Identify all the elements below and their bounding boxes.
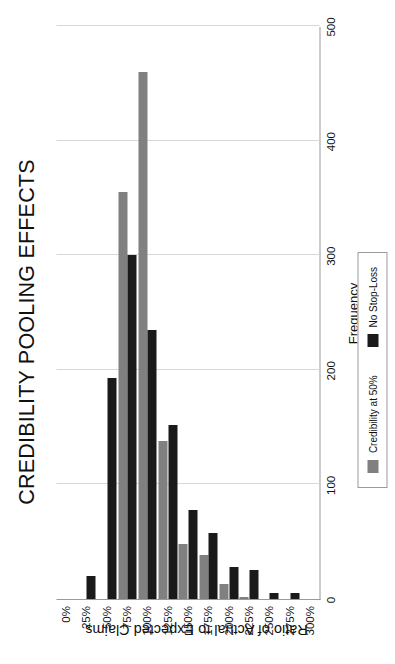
bar <box>86 576 95 599</box>
value-tick-label: 300 <box>324 247 336 266</box>
category-tick-label: 275% <box>283 606 295 664</box>
category-tick-label: 175% <box>201 606 213 664</box>
value-tick-label: 500 <box>324 17 336 36</box>
bar <box>199 555 208 599</box>
bar <box>219 584 228 599</box>
bar <box>290 593 299 599</box>
bar <box>118 192 127 599</box>
bar-group <box>218 27 238 599</box>
bar <box>249 570 258 599</box>
bar <box>107 378 116 599</box>
gray-square-icon <box>367 460 378 473</box>
bar <box>138 72 147 599</box>
bar <box>269 593 278 599</box>
bar-group <box>178 27 198 599</box>
category-tick-label: 125% <box>161 606 173 664</box>
legend-label: No Stop-Loss <box>367 267 378 328</box>
bar-group <box>239 27 259 599</box>
bar <box>208 533 217 599</box>
category-tick-label: 50% <box>100 606 112 664</box>
chart-figure: CREDIBILITY POOLING EFFECTS Frequency Ra… <box>0 0 395 664</box>
bar-group <box>137 27 157 599</box>
bar-group <box>198 27 218 599</box>
bar-group <box>117 27 137 599</box>
category-tick-label: 25% <box>79 606 91 664</box>
bar <box>178 544 187 599</box>
bar-group <box>300 27 320 599</box>
category-tick-label: 200% <box>222 606 234 664</box>
bar-group <box>76 27 96 599</box>
bar <box>188 510 197 599</box>
bar <box>168 425 177 599</box>
bar <box>239 597 248 599</box>
bar-group <box>97 27 117 599</box>
category-tick-label: 75% <box>120 606 132 664</box>
legend-label: Credibility at 50% <box>367 375 378 453</box>
category-tick-label: 0% <box>59 606 71 664</box>
value-tick-label: 200 <box>324 361 336 380</box>
black-square-icon <box>367 335 378 348</box>
bar <box>147 330 156 599</box>
bar <box>158 441 167 599</box>
legend-item-credibility: Credibility at 50% <box>367 375 378 473</box>
plot-area <box>56 27 320 600</box>
category-tick-label: 150% <box>181 606 193 664</box>
category-tick-label: 100% <box>140 606 152 664</box>
bar <box>127 255 136 599</box>
gridline <box>56 25 319 26</box>
category-tick-label: 300% <box>303 606 315 664</box>
bar-group <box>279 27 299 599</box>
value-tick-label: 100 <box>324 476 336 495</box>
value-tick-label: 400 <box>324 132 336 151</box>
page-title: CREDIBILITY POOLING EFFECTS <box>14 0 39 664</box>
value-tick-label: 0 <box>324 597 336 603</box>
bar-group <box>158 27 178 599</box>
rotated-figure-wrapper: CREDIBILITY POOLING EFFECTS Frequency Ra… <box>0 0 395 664</box>
bar-group <box>56 27 76 599</box>
category-tick-label: 250% <box>262 606 274 664</box>
chart-legend: Credibility at 50% No Stop-Loss <box>357 252 387 488</box>
bar <box>229 567 238 599</box>
legend-item-no-stop-loss: No Stop-Loss <box>367 267 378 348</box>
bar-group <box>259 27 279 599</box>
category-tick-label: 225% <box>242 606 254 664</box>
